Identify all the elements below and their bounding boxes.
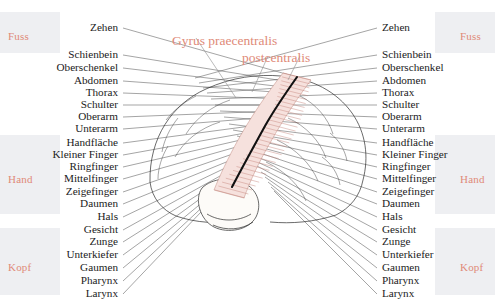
gyral-detail-right <box>266 96 347 201</box>
leader-line <box>123 142 254 179</box>
leader-line <box>123 160 242 217</box>
part-label-left: Mittelfinger <box>64 173 118 184</box>
leader-line <box>123 111 275 117</box>
hatch-line <box>240 163 270 171</box>
part-label-right: Unterkiefer <box>382 249 434 260</box>
leader-lines-right <box>195 28 377 294</box>
leader-line <box>123 124 266 143</box>
leader-line <box>229 124 377 143</box>
part-label-left: Unterkiefer <box>66 249 118 260</box>
figure-title-praecentralis: Gyrus praecentralis <box>172 33 277 49</box>
leader-lines-left <box>123 28 300 294</box>
hatch-line <box>282 77 310 84</box>
hatch-line <box>260 135 289 143</box>
leader-line <box>257 166 377 230</box>
part-label-right: Zeigefinger <box>382 186 434 197</box>
band-hatching <box>215 73 311 198</box>
leader-line <box>211 93 377 99</box>
leader-line <box>123 172 234 242</box>
leader-line <box>123 81 288 93</box>
leader-line <box>249 154 377 204</box>
part-label-left: Larynx <box>86 288 118 299</box>
leader-line <box>268 182 377 268</box>
hatch-line <box>277 96 305 103</box>
part-label-left: Zeigefinger <box>66 186 118 197</box>
leader-line <box>203 68 377 88</box>
part-label-right: Hals <box>382 211 403 222</box>
leader-line <box>253 160 377 217</box>
leader-line <box>123 93 284 99</box>
hatch-line <box>226 178 256 186</box>
group-label-hand-left: Hand <box>8 173 33 185</box>
hatch-line <box>275 104 304 111</box>
leader-line <box>123 191 221 294</box>
hatch-line <box>252 147 281 155</box>
part-label-left: Abdomen <box>74 75 118 86</box>
hatch-line <box>263 131 292 139</box>
group-label-fuss-left: Fuss <box>8 30 29 42</box>
leader-line <box>207 81 377 93</box>
part-label-right: Schienbein <box>382 49 432 60</box>
part-label-left: Daumen <box>80 198 118 209</box>
part-label-left: Schulter <box>81 99 118 110</box>
hatch-line <box>229 174 259 182</box>
hatch-line <box>272 112 301 119</box>
part-label-right: Oberschenkel <box>382 62 444 73</box>
hatch-line <box>265 128 294 136</box>
leader-line <box>123 148 250 192</box>
part-label-right: Oberarm <box>382 111 422 122</box>
part-label-right: Larynx <box>382 288 414 299</box>
leader-line <box>123 154 246 204</box>
part-label-right: Gaumen <box>382 262 420 273</box>
part-label-left: Unterarm <box>75 123 118 134</box>
hatch-line <box>274 108 303 115</box>
hatch-line <box>267 124 296 132</box>
hatch-line <box>237 167 267 175</box>
part-label-left: Handfläche <box>66 137 118 148</box>
hatch-line <box>222 182 252 190</box>
part-label-left: Schienbein <box>68 49 118 60</box>
group-label-hand-right: Hand <box>460 173 485 185</box>
group-label-kopf-left: Kopf <box>8 261 31 273</box>
leader-line <box>123 187 224 281</box>
leader-line <box>224 117 377 129</box>
hatch-line <box>283 73 311 80</box>
part-label-right: Pharynx <box>382 275 419 286</box>
part-label-left: Zunge <box>89 236 118 247</box>
leader-line <box>233 130 377 155</box>
part-label-left: Gesicht <box>84 224 118 235</box>
hatch-line <box>218 186 248 194</box>
leader-line <box>123 117 271 129</box>
central-gyrus-band <box>214 73 311 198</box>
hatch-line <box>255 143 284 151</box>
leader-line <box>237 136 377 167</box>
brain-outline <box>150 75 366 222</box>
part-label-right: Abdomen <box>382 75 426 86</box>
part-label-left: Zehen <box>90 22 118 33</box>
leader-line <box>241 142 377 179</box>
homunculus-figure: Fuss Hand Kopf Fuss Hand Kopf Gyrus prae… <box>0 0 495 307</box>
leader-line <box>220 111 377 117</box>
leader-line <box>123 68 292 88</box>
part-label-left: Hals <box>97 211 118 222</box>
hatch-line <box>279 89 307 96</box>
leader-line <box>274 191 377 294</box>
part-label-right: Schulter <box>382 99 419 110</box>
part-label-left: Gaumen <box>80 262 118 273</box>
part-label-right: Zehen <box>382 22 410 33</box>
leader-line <box>245 148 377 192</box>
part-label-right: Handfläche <box>382 137 434 148</box>
hatch-line <box>249 151 278 159</box>
part-label-right: Gesicht <box>382 224 416 235</box>
leader-line <box>123 166 238 230</box>
hatch-line <box>278 93 306 100</box>
hatch-line <box>215 190 245 198</box>
hatch-line <box>280 85 308 92</box>
hatch-line <box>281 81 309 88</box>
leader-line <box>123 130 262 155</box>
part-label-left: Ringfinger <box>70 161 118 172</box>
hatch-line <box>246 155 275 163</box>
group-label-kopf-right: Kopf <box>460 261 483 273</box>
leader-line <box>261 172 377 242</box>
hatch-line <box>269 120 298 127</box>
